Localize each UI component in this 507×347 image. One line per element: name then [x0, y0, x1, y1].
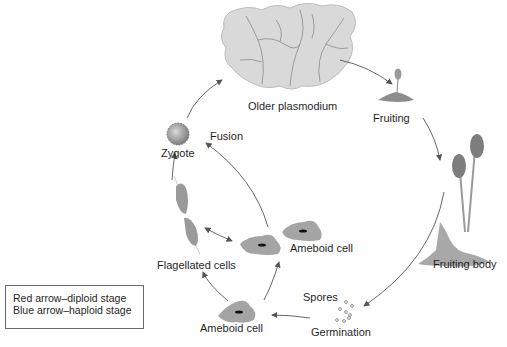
arrow-germination-to-ameboid — [272, 315, 310, 318]
label-fruiting: Fruiting — [373, 112, 410, 124]
ameboid-cell-bottom-illustration — [218, 301, 255, 323]
label-older-plasmodium: Older plasmodium — [248, 100, 337, 112]
label-fusion: Fusion — [210, 130, 243, 142]
fruiting-body-illustration — [418, 134, 490, 267]
arrow-ameboid-to-ameboid — [264, 262, 279, 300]
label-flagellated-cells: Flagellated cells — [157, 259, 236, 271]
label-fruiting-body: Fruiting body — [433, 258, 497, 270]
label-germination: Germination — [311, 326, 371, 338]
arrow-flagellated-ameboid-bidirectional — [205, 228, 232, 241]
arrow-fusion — [206, 143, 268, 227]
arrow-fruiting-to-fruiting-body — [423, 118, 440, 160]
label-ameboid-cell-bottom: Ameboid cell — [200, 322, 263, 334]
legend-diploid: Red arrow–diploid stage — [13, 292, 143, 304]
flagellated-cells-illustration — [174, 176, 200, 254]
arrow-plasmodium-to-fruiting — [340, 60, 392, 84]
arrow-zygote-to-plasmodium — [187, 80, 222, 118]
label-spores: Spores — [303, 291, 338, 303]
label-ameboid-cell-middle: Ameboid cell — [290, 242, 353, 254]
label-zygote: Zygote — [161, 147, 195, 159]
arrow-ameboid-to-flagellated — [203, 272, 228, 301]
older-plasmodium-illustration — [221, 3, 355, 89]
arrow-fruiting-body-to-spores — [364, 192, 444, 306]
spores-illustration — [336, 301, 354, 323]
legend-box: Red arrow–diploid stage Blue arrow–haplo… — [5, 285, 144, 329]
zygote-illustration — [167, 123, 189, 145]
fruiting-illustration — [378, 69, 414, 103]
life-cycle-diagram: Older plasmodium Fruiting Fruiting body … — [0, 0, 507, 347]
legend-haploid: Blue arrow–haploid stage — [13, 304, 143, 316]
